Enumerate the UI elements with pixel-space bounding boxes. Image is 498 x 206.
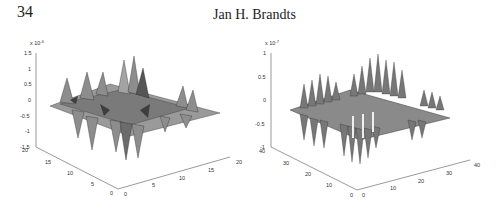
svg-text:1: 1 — [28, 66, 31, 72]
svg-text:20: 20 — [236, 159, 242, 165]
left-z-ticks: 1.5 1 0.5 0 -0.5 -1 -1.5 — [20, 50, 32, 150]
right-surface-plot: x 10-7 1 0.5 0 -0.5 -1 40 30 20 10 0 0 1… — [255, 39, 480, 199]
svg-text:1.5: 1.5 — [24, 50, 32, 56]
figure: x 10-6 1.5 1 0.5 0 -0.5 -1 -1.5 20 15 10… — [0, 0, 498, 206]
right-z-multiplier: x 10-7 — [265, 39, 280, 47]
svg-text:5: 5 — [91, 181, 94, 187]
svg-text:0: 0 — [110, 190, 113, 196]
svg-text:0.5: 0.5 — [24, 81, 32, 87]
svg-text:-1: -1 — [25, 128, 30, 134]
svg-text:0: 0 — [350, 192, 353, 198]
right-x-ticks: 0 10 20 30 40 — [362, 162, 480, 198]
svg-text:10: 10 — [390, 185, 396, 191]
svg-text:0: 0 — [28, 97, 31, 103]
svg-text:40: 40 — [474, 162, 480, 168]
left-y-ticks: 20 15 10 5 0 — [22, 147, 113, 196]
svg-text:10: 10 — [326, 182, 332, 188]
svg-text:20: 20 — [22, 147, 28, 153]
svg-text:30: 30 — [283, 160, 289, 166]
svg-text:10: 10 — [179, 175, 185, 181]
svg-text:0: 0 — [362, 192, 365, 198]
left-x-ticks: 0 5 10 15 20 — [124, 159, 242, 197]
svg-text:15: 15 — [45, 159, 51, 165]
right-z-ticks: 1 0.5 0 -0.5 -1 — [255, 50, 266, 150]
svg-text:40: 40 — [259, 148, 265, 154]
svg-text:0: 0 — [263, 97, 266, 103]
left-surface-plot: x 10-6 1.5 1 0.5 0 -0.5 -1 -1.5 20 15 10… — [20, 39, 242, 198]
svg-text:20: 20 — [418, 178, 424, 184]
svg-text:15: 15 — [208, 167, 214, 173]
svg-text:-0.5: -0.5 — [20, 113, 29, 119]
svg-text:0.5: 0.5 — [258, 74, 266, 80]
svg-text:10: 10 — [67, 170, 73, 176]
svg-text:5: 5 — [152, 182, 155, 188]
svg-text:20: 20 — [305, 171, 311, 177]
svg-text:1: 1 — [263, 50, 266, 56]
right-y-ticks: 40 30 20 10 0 — [259, 148, 353, 198]
svg-text:30: 30 — [446, 170, 452, 176]
left-z-multiplier: x 10-6 — [30, 39, 45, 47]
svg-text:-0.5: -0.5 — [255, 121, 264, 127]
svg-text:0: 0 — [124, 191, 127, 197]
